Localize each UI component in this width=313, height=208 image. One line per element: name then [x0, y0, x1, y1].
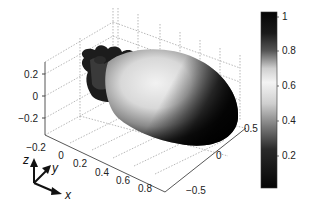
y-tick: 0 [216, 150, 222, 161]
z-tick: 0 [32, 91, 38, 102]
x-arrow-icon [51, 187, 62, 195]
x-tick: 0.4 [95, 167, 109, 178]
triad-z-label: z [22, 153, 29, 167]
colorbar: 1 0.8 0.6 0.4 0.2 [261, 11, 296, 188]
x-tick: 0.2 [73, 158, 87, 169]
colorbar-tick: 0.2 [282, 150, 296, 161]
z-tick: 0.2 [24, 69, 38, 80]
z-axis-ticks: 0.2 0 −0.2 [18, 69, 45, 124]
colorbar-tick: 0.8 [282, 45, 296, 56]
colorbar-tick: 0.6 [282, 80, 296, 91]
z-tick: −0.2 [18, 113, 38, 124]
triad-x-label: x [64, 188, 72, 202]
x-tick: 0 [58, 150, 64, 161]
x-tick: 0.8 [138, 183, 152, 194]
orientation-triad: z y x [22, 153, 72, 202]
z-arrow-icon [30, 158, 38, 167]
heart-surface [82, 45, 238, 145]
y-tick: 0.5 [244, 123, 258, 134]
triad-y-label: y [51, 161, 59, 175]
colorbar-tick: 1 [282, 11, 288, 22]
x-tick: 0.6 [116, 175, 130, 186]
x-tick: −0.2 [26, 142, 46, 153]
surface-plot: 0.2 0 −0.2 −0.2 0 0.2 0.4 0.6 0.8 0.5 0 … [0, 0, 313, 208]
y-tick: −0.5 [186, 185, 206, 196]
colorbar-tick: 0.4 [282, 115, 296, 126]
